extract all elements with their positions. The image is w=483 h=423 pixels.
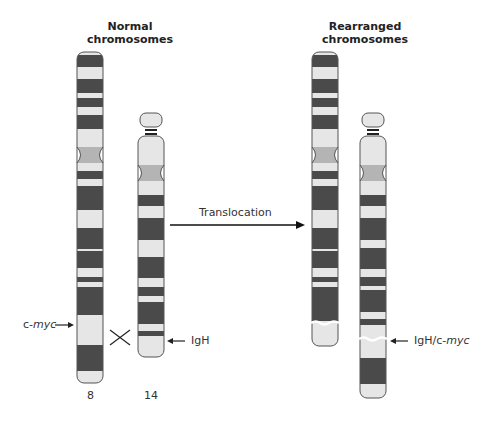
cmyc-label: c-myc xyxy=(23,318,56,331)
igh-cmyc-label: IgH/c-myc xyxy=(414,334,470,347)
chromosome-8-number: 8 xyxy=(87,389,94,402)
chromosome-14-normal xyxy=(138,113,164,357)
satellite xyxy=(362,113,384,127)
translocation-label: Translocation xyxy=(199,206,272,219)
igh-label: IgH xyxy=(191,334,210,347)
chromosome-14-number: 14 xyxy=(144,389,158,402)
crossover-x-icon xyxy=(110,330,130,345)
cmyc-label-italic: myc xyxy=(33,318,56,331)
chromosome-8-rearranged xyxy=(311,52,339,346)
igh-arrow-icon xyxy=(167,338,185,344)
cmyc-label-prefix: c- xyxy=(23,318,33,331)
chromosome-8-normal xyxy=(77,52,103,383)
cmyc-arrow-icon xyxy=(55,322,74,328)
chromosome-14-rearranged xyxy=(359,113,387,398)
translocation-arrow-icon xyxy=(170,221,305,229)
satellite xyxy=(140,113,162,127)
igh-cmyc-label-prefix: IgH/c- xyxy=(414,334,446,347)
igh-cmyc-arrow-icon xyxy=(390,338,408,344)
igh-cmyc-label-italic: myc xyxy=(446,334,469,347)
